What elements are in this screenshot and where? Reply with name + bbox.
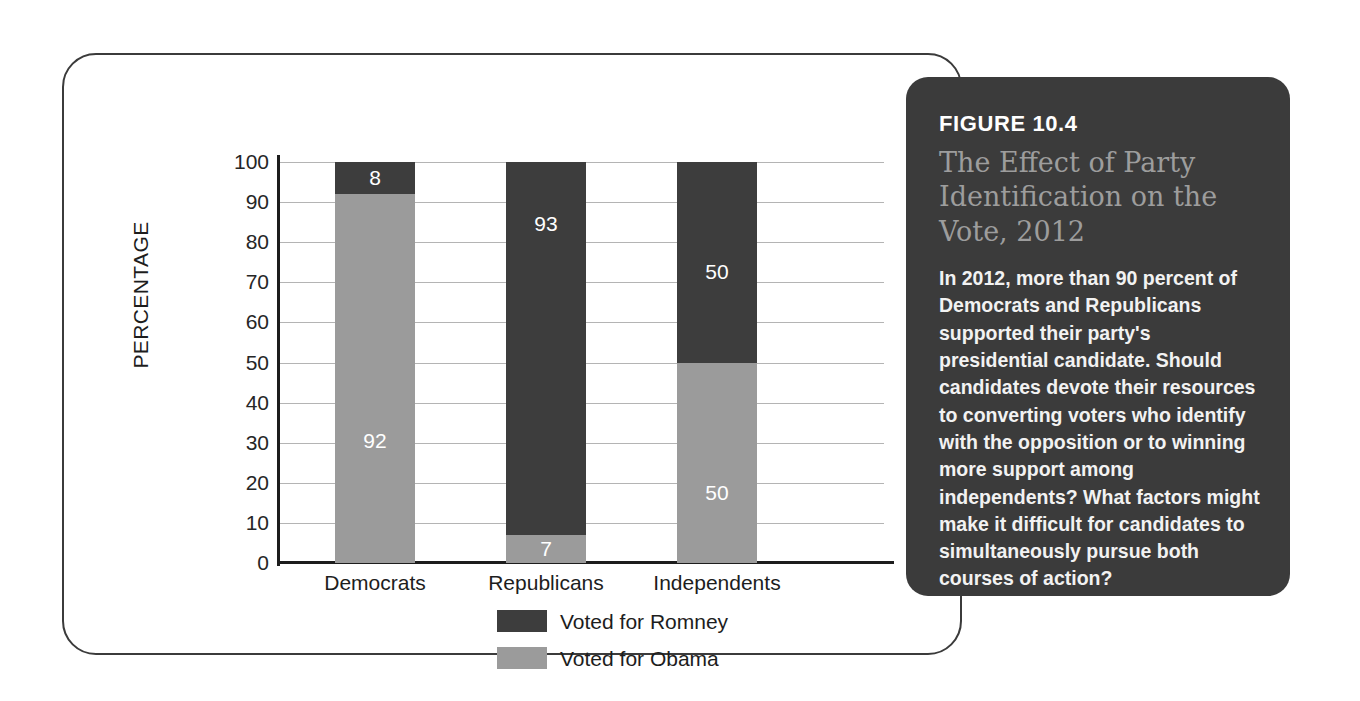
figure-caption-text: In 2012, more than 90 percent of Democra…: [939, 265, 1260, 593]
chart-card: PERCENTAGE 0102030405060708090100 928793…: [62, 53, 962, 655]
y-axis-tick-label: 70: [223, 271, 269, 292]
y-axis-tick-label: 30: [223, 432, 269, 453]
y-axis-tick-label: 90: [223, 191, 269, 212]
legend-label: Voted for Obama: [560, 648, 719, 669]
y-axis-title: PERCENTAGE: [129, 195, 153, 395]
legend-swatch: [497, 610, 547, 632]
y-axis-tick-label: 60: [223, 311, 269, 332]
y-axis-tick-label: 10: [223, 512, 269, 533]
bar-value-label: 8: [369, 166, 381, 190]
legend-item[interactable]: Voted for Obama: [497, 643, 728, 673]
figure-caption-box: FIGURE 10.4 The Effect of Party Identifi…: [906, 77, 1290, 596]
y-axis-tick-label: 100: [223, 151, 269, 172]
bar-segment[interactable]: 93: [506, 162, 586, 535]
bar-group[interactable]: 793: [506, 162, 586, 563]
bar-value-label: 93: [534, 212, 557, 236]
y-axis-tick-label: 20: [223, 472, 269, 493]
y-axis-tick-label: 0: [223, 552, 269, 573]
y-axis-tick-labels: 0102030405060708090100: [219, 162, 269, 563]
bar-value-label: 7: [540, 537, 552, 561]
x-axis-category-label: Independents: [607, 571, 827, 595]
bar-segment[interactable]: 50: [677, 363, 757, 564]
figure-number: FIGURE 10.4: [939, 110, 1260, 138]
y-axis-tick-label: 40: [223, 392, 269, 413]
legend-swatch: [497, 647, 547, 669]
bar-segment[interactable]: 7: [506, 535, 586, 563]
bar-group[interactable]: 5050: [677, 162, 757, 563]
bar-segment[interactable]: 50: [677, 162, 757, 363]
bar-value-label: 50: [705, 481, 728, 505]
legend-item[interactable]: Voted for Romney: [497, 606, 728, 636]
plot-area: 9287935050: [279, 162, 892, 563]
y-axis-tick-label: 80: [223, 231, 269, 252]
bar-segment[interactable]: 8: [335, 162, 415, 194]
legend-label: Voted for Romney: [560, 611, 728, 632]
figure-title: The Effect of Party Identification on th…: [939, 146, 1260, 250]
chart-legend: Voted for RomneyVoted for Obama: [497, 606, 728, 680]
bar-group[interactable]: 928: [335, 162, 415, 563]
bar-segment[interactable]: 92: [335, 194, 415, 563]
bar-value-label: 50: [705, 260, 728, 284]
y-axis-tick-label: 50: [223, 352, 269, 373]
bar-value-label: 92: [363, 429, 386, 453]
